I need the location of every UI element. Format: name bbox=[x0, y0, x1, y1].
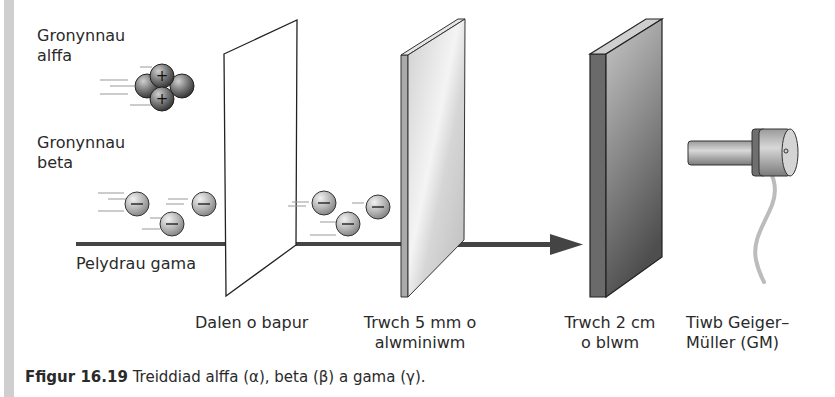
beta-label-line1: Gronynnau bbox=[37, 133, 125, 153]
geiger-muller-tube bbox=[688, 129, 798, 282]
alpha-label-line2: alffa bbox=[37, 46, 125, 66]
paper-sheet bbox=[224, 20, 297, 296]
alpha-label-line1: Gronynnau bbox=[37, 26, 125, 46]
lead-label-line2: o blwm bbox=[555, 333, 665, 353]
lead-block bbox=[590, 19, 662, 297]
aluminium-sheet bbox=[401, 19, 465, 297]
gm-tube-label-line2: Müller (GM) bbox=[686, 333, 789, 353]
lead-label-line1: Trwch 2 cm bbox=[555, 313, 665, 333]
gm-tube-label-line1: Tiwb Geiger– bbox=[686, 313, 789, 333]
beta-particles-middle bbox=[288, 191, 390, 236]
gamma-label: Pelydrau gama bbox=[76, 254, 196, 274]
plus-sign-icon: + bbox=[156, 67, 169, 85]
aluminium-label-line1: Trwch 5 mm o bbox=[355, 313, 485, 333]
alpha-particle: + + bbox=[100, 64, 194, 111]
alpha-label: Gronynnau alffa bbox=[37, 26, 125, 66]
gm-tube-label: Tiwb Geiger– Müller (GM) bbox=[686, 313, 789, 353]
beta-particles-left bbox=[98, 192, 216, 236]
lead-label: Trwch 2 cm o blwm bbox=[555, 313, 665, 353]
figure-number: Ffigur 16.19 bbox=[25, 368, 128, 386]
beta-label: Gronynnau beta bbox=[37, 133, 125, 173]
plus-sign-icon: + bbox=[156, 90, 169, 108]
gamma-arrowhead-icon bbox=[550, 234, 583, 255]
aluminium-label-line2: alwminiwm bbox=[355, 333, 485, 353]
figure-caption: Ffigur 16.19 Treiddiad alffa (α), beta (… bbox=[25, 368, 426, 386]
beta-label-line2: beta bbox=[37, 153, 125, 173]
aluminium-label: Trwch 5 mm o alwminiwm bbox=[355, 313, 485, 353]
paper-label: Dalen o bapur bbox=[195, 313, 308, 333]
caption-text: Treiddiad alffa (α), beta (β) a gama (γ)… bbox=[128, 368, 426, 386]
gamma-ray-beam bbox=[76, 234, 583, 255]
